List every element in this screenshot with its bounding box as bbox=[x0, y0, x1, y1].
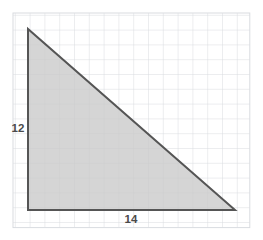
height-dimension-label: 12 bbox=[12, 122, 25, 134]
triangle-diagram: 12 14 bbox=[0, 0, 263, 240]
geometry-figure-container: 12 14 bbox=[0, 0, 263, 240]
base-dimension-label: 14 bbox=[125, 213, 138, 225]
